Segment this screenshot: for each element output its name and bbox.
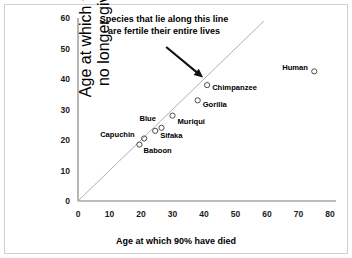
y-tick-60: 60 <box>48 14 70 23</box>
annotation-line-2: are fertile their entire lives <box>80 25 248 37</box>
point-label-chimpanzee: Chimpanzee <box>212 84 257 92</box>
y-tick-0: 0 <box>48 197 70 206</box>
data-point-gorilla <box>195 98 200 103</box>
x-axis-title: Age at which 90% have died <box>0 236 352 246</box>
annotation-line-1: Species that lie along this line <box>80 13 248 25</box>
data-point-human <box>312 69 317 74</box>
x-tick-80: 80 <box>319 210 341 219</box>
x-tick-60: 60 <box>256 210 278 219</box>
scatter-plot-canvas <box>0 0 352 258</box>
x-tick-0: 0 <box>67 210 89 219</box>
x-tick-40: 40 <box>193 210 215 219</box>
fertility-line-annotation: Species that lie along this line are fer… <box>80 13 248 37</box>
point-label-capuchin: Capuchin <box>100 131 135 139</box>
chart-figure: 0102030405060 01020304050607080 BaboonCa… <box>0 0 352 258</box>
point-label-baboon: Baboon <box>143 147 171 155</box>
data-point-muriqui <box>170 113 175 118</box>
point-label-human: Human <box>282 64 308 72</box>
data-point-chimpanzee <box>205 83 210 88</box>
x-tick-70: 70 <box>288 210 310 219</box>
y-tick-10: 10 <box>48 167 70 176</box>
data-point-baboon <box>137 142 142 147</box>
x-tick-30: 30 <box>162 210 184 219</box>
axes-group <box>78 18 336 201</box>
annotation-arrow-group <box>166 47 203 78</box>
annotation-arrow-shaft <box>166 47 199 74</box>
point-label-blue: Blue <box>139 115 155 123</box>
data-point-sifaka <box>153 128 158 133</box>
x-tick-50: 50 <box>225 210 247 219</box>
x-tick-10: 10 <box>99 210 121 219</box>
y-tick-20: 20 <box>48 136 70 145</box>
y-tick-50: 50 <box>48 45 70 54</box>
x-tick-20: 20 <box>130 210 152 219</box>
point-label-muriqui: Muriqui <box>178 118 205 126</box>
point-label-gorilla: Gorilla <box>203 101 227 109</box>
y-tick-30: 30 <box>48 106 70 115</box>
point-label-sifaka: Sifaka <box>160 132 182 140</box>
data-point-blue <box>159 125 164 130</box>
y-tick-40: 40 <box>48 75 70 84</box>
